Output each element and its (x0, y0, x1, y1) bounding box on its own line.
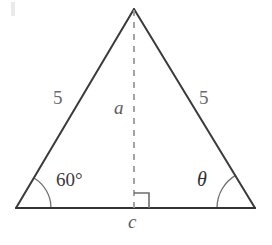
triangle-right-side (134, 9, 255, 208)
right-side-length-label: 5 (199, 88, 209, 107)
right-angle-theta-label: θ (197, 169, 207, 189)
left-angle-arc (34, 178, 52, 208)
right-angle-marker (134, 193, 149, 208)
diagram-canvas (0, 0, 272, 245)
left-side-length-label: 5 (53, 88, 63, 107)
right-angle-arc (217, 175, 236, 208)
altitude-label: a (114, 98, 124, 117)
left-angle-label: 60° (56, 170, 83, 189)
triangle-diagram: 5 5 a c 60° θ (0, 0, 272, 245)
base-label: c (128, 212, 136, 231)
